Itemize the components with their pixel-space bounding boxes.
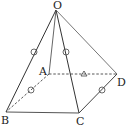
edge-CD — [79, 74, 117, 113]
label-C: C — [76, 115, 84, 128]
triangle-mark-AD — [81, 71, 87, 76]
label-B: B — [1, 114, 9, 127]
edge-AB — [6, 74, 49, 112]
label-O: O — [53, 0, 62, 12]
label-A: A — [38, 65, 48, 78]
edge-BC — [6, 112, 79, 113]
pyramid-diagram: O A B C D — [0, 0, 132, 135]
edge-OB — [6, 10, 56, 112]
edge-OA — [49, 10, 56, 74]
label-D: D — [117, 76, 126, 89]
circle-mark-AB — [28, 87, 34, 93]
edge-OD — [56, 10, 117, 74]
edge-OC — [56, 10, 79, 113]
